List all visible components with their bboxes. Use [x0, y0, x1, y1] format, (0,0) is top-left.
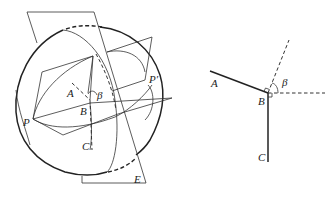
angle-beta-arc — [88, 91, 97, 95]
projection-figure: A B C β — [210, 40, 325, 163]
diagram-canvas: A B C P P′ E β A B C β — [0, 0, 329, 198]
label-B-right: B — [258, 95, 265, 107]
segment-AB — [210, 71, 268, 93]
label-E: E — [133, 173, 141, 185]
great-circle-5 — [145, 85, 153, 120]
solid-line-B-up — [90, 56, 93, 100]
horizontal-plane — [33, 98, 172, 135]
tilted-plane-right — [107, 37, 152, 91]
sphere-hidden-bottom — [108, 158, 136, 172]
label-beta-left: β — [96, 89, 103, 101]
angle-beta-arc-right — [272, 83, 278, 93]
plane-E — [27, 12, 146, 183]
label-B-left: B — [80, 105, 87, 117]
label-P-prime: P′ — [148, 73, 159, 85]
great-circle-4 — [107, 51, 145, 72]
plane-E-left-edge — [27, 12, 37, 43]
label-C-left: C — [82, 140, 90, 152]
label-A-right: A — [210, 77, 218, 89]
label-A-left: A — [66, 87, 74, 99]
dashed-line-AB — [72, 83, 90, 100]
sphere-figure: A B C P P′ E β — [16, 12, 172, 185]
label-P: P — [22, 116, 30, 128]
label-C-right: C — [258, 151, 266, 163]
sphere-hidden-top — [66, 26, 102, 29]
label-beta-right: β — [281, 76, 288, 88]
